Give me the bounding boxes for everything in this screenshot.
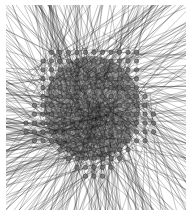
graph-node: [49, 50, 53, 54]
graph-node: [83, 103, 87, 107]
graph-node: [134, 139, 138, 143]
graph-node: [49, 139, 53, 143]
graph-node: [143, 103, 147, 107]
graph-node: [41, 94, 45, 98]
graph-node: [83, 165, 87, 169]
graph-node: [126, 112, 130, 116]
graph-node: [117, 139, 121, 143]
graph-node: [41, 85, 45, 89]
graph-node: [117, 77, 121, 81]
graph-node: [126, 121, 130, 125]
graph-node: [75, 85, 79, 89]
graph-node: [92, 156, 96, 160]
graph-node: [66, 139, 70, 143]
graph-node: [83, 68, 87, 72]
graph-node: [126, 59, 130, 63]
network-diagram: [0, 0, 193, 217]
graph-node: [92, 85, 96, 89]
graph-node: [117, 59, 121, 63]
graph-node: [58, 59, 62, 63]
graph-node: [109, 103, 113, 107]
graph-node: [49, 130, 53, 134]
graph-edges: [0, 0, 193, 217]
graph-node: [134, 103, 138, 107]
graph-node: [83, 130, 87, 134]
graph-node: [100, 94, 104, 98]
graph-node: [32, 121, 36, 125]
graph-node: [109, 77, 113, 81]
graph-node: [66, 94, 70, 98]
graph-node: [75, 68, 79, 72]
graph-node: [126, 77, 130, 81]
graph-node: [75, 112, 79, 116]
graph-edge: [0, 153, 122, 217]
graph-node: [83, 147, 87, 151]
graph-node: [109, 165, 113, 169]
graph-node: [100, 121, 104, 125]
graph-node: [75, 59, 79, 63]
graph-node: [117, 112, 121, 116]
graph-node: [41, 112, 45, 116]
graph-node: [49, 94, 53, 98]
graph-node: [83, 77, 87, 81]
graph-node: [75, 77, 79, 81]
graph-node: [134, 50, 138, 54]
graph-node: [58, 139, 62, 143]
graph-node: [126, 85, 130, 89]
graph-node: [126, 130, 130, 134]
graph-node: [92, 103, 96, 107]
graph-node: [109, 50, 113, 54]
graph-node: [92, 77, 96, 81]
graph-node: [83, 121, 87, 125]
graph-node: [75, 50, 79, 54]
graph-node: [66, 156, 70, 160]
graph-node: [100, 139, 104, 143]
graph-node: [58, 94, 62, 98]
graph-node: [83, 94, 87, 98]
graph-node: [143, 94, 147, 98]
graph-node: [66, 68, 70, 72]
graph-node: [100, 59, 104, 63]
graph-node: [58, 103, 62, 107]
graph-node: [143, 130, 147, 134]
graph-node: [66, 130, 70, 134]
graph-node: [117, 130, 121, 134]
graph-node: [32, 112, 36, 116]
graph-node: [49, 112, 53, 116]
graph-node: [32, 103, 36, 107]
graph-node: [109, 94, 113, 98]
graph-node: [41, 103, 45, 107]
graph-node: [66, 147, 70, 151]
graph-node: [109, 147, 113, 151]
graph-node: [83, 174, 87, 178]
graph-node: [24, 130, 28, 134]
graph-node: [126, 94, 130, 98]
graph-node: [49, 85, 53, 89]
graph-node: [126, 147, 130, 151]
graph-node: [83, 139, 87, 143]
graph-node: [58, 85, 62, 89]
graph-node: [126, 139, 130, 143]
graph-node: [58, 121, 62, 125]
graph-node: [58, 130, 62, 134]
graph-node: [75, 156, 79, 160]
graph-node: [41, 130, 45, 134]
graph-node: [92, 59, 96, 63]
graph-node: [58, 112, 62, 116]
graph-node: [66, 59, 70, 63]
graph-node: [32, 139, 36, 143]
graph-node: [109, 59, 113, 63]
graph-node: [117, 147, 121, 151]
graph-node: [41, 121, 45, 125]
graph-node: [126, 103, 130, 107]
graph-node: [66, 121, 70, 125]
graph-node: [117, 103, 121, 107]
graph-node: [117, 121, 121, 125]
graph-node: [92, 139, 96, 143]
graph-node: [83, 156, 87, 160]
graph-node: [49, 77, 53, 81]
graph-node: [109, 85, 113, 89]
graph-node: [134, 68, 138, 72]
graph-node: [100, 165, 104, 169]
graph-node: [83, 50, 87, 54]
